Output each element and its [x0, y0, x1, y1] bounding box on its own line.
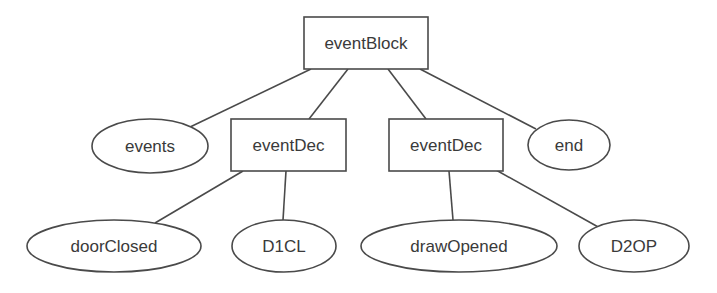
- node-D1CL: D1CL: [232, 220, 336, 272]
- edge-eventDec2-D2OP: [496, 170, 600, 228]
- node-D2OP: D2OP: [579, 220, 689, 272]
- node-eventBlock: eventBlock: [304, 17, 428, 69]
- node-eventDec1-label: eventDec: [253, 136, 325, 155]
- node-drawOpened: drawOpened: [361, 220, 557, 272]
- node-D1CL-label: D1CL: [262, 237, 305, 256]
- node-eventBlock-label: eventBlock: [324, 34, 408, 53]
- node-eventDec1: eventDec: [231, 119, 346, 171]
- node-drawOpened-label: drawOpened: [410, 237, 507, 256]
- edge-eventDec1-doorClosed: [155, 171, 243, 223]
- node-events: events: [92, 119, 208, 173]
- node-eventDec2: eventDec: [389, 119, 503, 171]
- node-events-label: events: [125, 137, 175, 156]
- node-end-label: end: [555, 136, 583, 155]
- edge-eventBlock-eventDec1: [309, 69, 348, 119]
- edge-eventDec2-drawOpened: [449, 171, 453, 220]
- edge-eventBlock-eventDec2: [388, 69, 426, 119]
- node-doorClosed-label: doorClosed: [71, 237, 158, 256]
- node-eventDec2-label: eventDec: [410, 136, 482, 155]
- node-doorClosed: doorClosed: [27, 220, 201, 272]
- node-end: end: [528, 120, 610, 170]
- syntax-tree-diagram: eventBlock events eventDec eventDec end …: [0, 0, 717, 293]
- node-D2OP-label: D2OP: [611, 237, 657, 256]
- edge-eventDec1-D1CL: [283, 171, 286, 220]
